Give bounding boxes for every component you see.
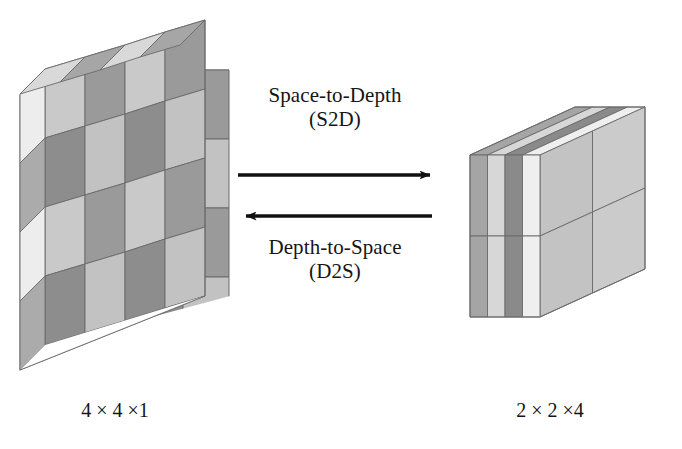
- shape-label-output: 2 × 2 ×4: [455, 399, 645, 421]
- output-tensor-2x2x4: [450, 40, 682, 420]
- operation-label-d2s: Depth-to-Space (D2S): [200, 236, 470, 283]
- figure-root: Space-to-Depth (S2D) Depth-to-Space (D2S…: [0, 0, 682, 449]
- operation-label-s2d-line2: (S2D): [200, 108, 470, 132]
- operation-label-d2s-line2: (D2S): [200, 260, 470, 284]
- input-tensor-4x4x1: [19, 0, 232, 420]
- operation-label-s2d-line1: Space-to-Depth: [200, 84, 470, 108]
- operation-arrows: [238, 175, 432, 216]
- operation-label-s2d: Space-to-Depth (S2D): [200, 84, 470, 131]
- diagram-canvas: [0, 0, 682, 449]
- operation-label-d2s-line1: Depth-to-Space: [200, 236, 470, 260]
- shape-label-input: 4 × 4 ×1: [20, 399, 210, 421]
